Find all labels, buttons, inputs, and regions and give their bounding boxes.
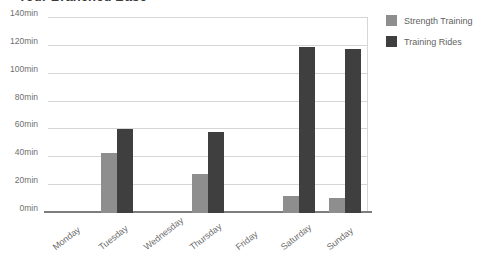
bar	[345, 49, 361, 213]
bar-chart: Your Branched Base 0min20min40min60min80…	[0, 0, 482, 267]
y-axis-tick-label: 100min	[10, 64, 38, 74]
bar-group	[277, 47, 323, 213]
legend-swatch-icon	[386, 36, 397, 47]
y-axis-tick-labels: 0min20min40min60min80min100min120min140m…	[0, 18, 44, 213]
x-axis-tick-label: Friday	[233, 229, 259, 252]
y-axis-tick-label: 0min	[20, 203, 38, 213]
x-axis-tick-label: Tuesday	[96, 223, 129, 252]
bar-group	[94, 129, 140, 213]
plot-area	[48, 18, 368, 213]
y-axis-tick-label: 120min	[10, 36, 38, 46]
x-axis-tick-label: Thursday	[188, 221, 224, 252]
gridline	[48, 45, 368, 46]
legend-item[interactable]: Training Rides	[386, 36, 473, 47]
bar	[101, 153, 117, 213]
gridline	[48, 17, 368, 18]
bar-group	[322, 49, 368, 213]
bar	[283, 196, 299, 213]
y-axis-tick-label: 60min	[15, 119, 38, 129]
legend-item[interactable]: Strength Training	[386, 15, 473, 26]
bar-group	[185, 132, 231, 213]
chart-title: Your Branched Base	[18, 0, 147, 4]
x-axis-tick-labels: MondayTuesdayWednesdayThursdayFridaySatu…	[48, 214, 368, 267]
y-axis-tick-label: 80min	[15, 92, 38, 102]
bar	[117, 129, 133, 213]
legend-label: Strength Training	[404, 16, 473, 26]
bar	[192, 174, 208, 213]
y-axis-tick-label: 20min	[15, 175, 38, 185]
x-axis-tick-label: Sunday	[325, 226, 355, 253]
chart-legend: Strength TrainingTraining Rides	[386, 15, 473, 47]
y-axis-tick-label: 40min	[15, 147, 38, 157]
x-axis-tick-label: Monday	[51, 225, 82, 253]
x-axis-tick-label: Saturday	[279, 222, 314, 252]
legend-label: Training Rides	[404, 37, 462, 47]
legend-swatch-icon	[386, 15, 397, 26]
x-axis-tick-label: Wednesday	[142, 215, 185, 252]
bar	[208, 132, 224, 213]
bar	[299, 47, 315, 213]
bar	[329, 198, 345, 213]
y-axis-tick-label: 140min	[10, 8, 38, 18]
